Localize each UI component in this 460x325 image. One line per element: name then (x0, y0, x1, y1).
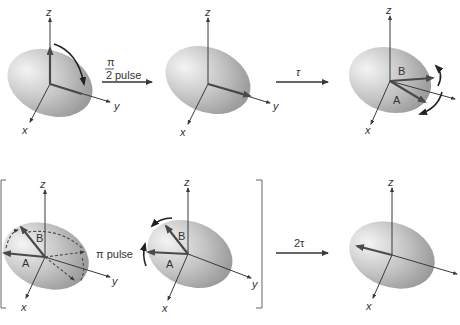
x-label: x (365, 300, 372, 312)
rotation-arrow-up (436, 66, 441, 86)
step-tau-delay: τ (276, 66, 328, 82)
delay-label: τ (296, 66, 301, 78)
pulse-numerator: π (107, 56, 115, 68)
spin-echo-diagram: z y x π 2 pulse z y x τ z x (0, 0, 460, 325)
panel-5: z y x B A (137, 176, 259, 314)
x-label: x (20, 301, 27, 313)
y-label: y (251, 278, 259, 290)
z-label: z (39, 178, 46, 190)
panel-1: z y x (0, 6, 121, 136)
panel-3: z x B A (340, 4, 455, 136)
x-label: x (364, 124, 371, 136)
pulse-label: pulse (115, 69, 141, 81)
delay-label: 2τ (294, 237, 305, 249)
ellipsoid (0, 37, 103, 129)
step-pi-pulse: π pulse (96, 248, 133, 260)
label-a: A (22, 257, 30, 269)
label-a: A (393, 94, 401, 106)
pulse-label: π pulse (96, 248, 133, 260)
label-b: B (178, 230, 185, 242)
x-label: x (179, 126, 186, 138)
panel-6: z x (340, 176, 457, 312)
y-label: y (272, 100, 280, 112)
y-label: y (111, 275, 119, 287)
step-pi-over-2-pulse: π 2 pulse (102, 56, 152, 82)
rotation-arrow-up (144, 244, 146, 266)
z-label: z (183, 176, 190, 188)
pulse-denominator: 2 (106, 69, 112, 81)
z-label: z (387, 176, 394, 188)
panel-4: z y x B A (0, 178, 119, 313)
panel-2: z y x (155, 6, 280, 138)
z-label: z (385, 4, 392, 16)
x-label: x (21, 124, 28, 136)
y-label: y (113, 100, 121, 112)
x-label: x (161, 302, 168, 314)
step-2tau-delay: 2τ (276, 237, 328, 253)
z-label: z (45, 6, 52, 18)
label-b: B (398, 65, 405, 77)
ellipsoid (0, 211, 98, 301)
label-a: A (166, 258, 174, 270)
z-label: z (204, 6, 211, 18)
label-b: B (36, 232, 43, 244)
ellipsoid (137, 208, 243, 300)
